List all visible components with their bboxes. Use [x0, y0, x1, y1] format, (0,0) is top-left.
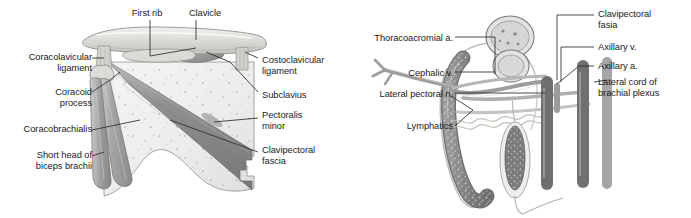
- label-thoracoacromial-artery: Thoracoacromial a.: [347, 33, 453, 44]
- anatomy-figure-page: Coracolavicular ligament Coracoid proces…: [0, 0, 691, 218]
- costoclavicular-ligament-shape: [236, 47, 248, 70]
- label-pectoralis-minor: Pectoralis minor: [262, 110, 322, 132]
- label-clavipectoral-fascia: Clavipectoral fascia: [262, 145, 334, 167]
- label-coracoid-process: Coracoid process: [24, 87, 92, 109]
- axillary-artery-shape: [580, 66, 583, 182]
- figure-clavipectoral-structures: Thoracoacromial a. Cephalic v. Lateral p…: [345, 0, 691, 218]
- lymph-node-shape: [500, 96, 563, 214]
- label-clavicle: Clavicle: [183, 8, 227, 19]
- label-lateral-pectoral-nerve: Lateral pectoral n.: [347, 89, 453, 100]
- horizontal-vessel-bands: [457, 92, 589, 113]
- label-coracobrachialis: Coracobrachialis: [2, 124, 92, 135]
- label-coracoclavicular-ligament: Coracolavicular ligament: [4, 52, 92, 74]
- label-short-head-biceps-brachii: Short head of biceps brachii: [14, 150, 92, 172]
- cephalic-vein-shape: [447, 58, 487, 201]
- first-rib-shape: [123, 49, 196, 62]
- label-first-rib: First rib: [124, 8, 170, 19]
- label-axillary-artery: Axillary a.: [598, 61, 660, 72]
- label-subclavius: Subclavius: [262, 90, 322, 101]
- figure-clavipectoral-dissection: Coracolavicular ligament Coracoid proces…: [0, 0, 345, 218]
- label-lateral-cord-brachial-plexus: Lateral cord of brachial plexus: [598, 77, 690, 99]
- label-axillary-vein: Axillary v.: [598, 42, 660, 53]
- label-costoclavicular-ligament: Costoclavicular ligament: [262, 55, 344, 77]
- label-lymphatics: Lymphatics: [383, 121, 453, 132]
- label-cephalic-vein: Cephalic v.: [379, 68, 453, 79]
- label-clavipectoral-fasia: Clavipectoral fasia: [598, 9, 686, 31]
- axillary-vein-shape: [544, 82, 547, 184]
